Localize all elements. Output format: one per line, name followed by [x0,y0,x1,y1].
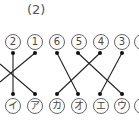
bottom-label-u: ウ [114,98,130,114]
top-label-6: 6 [49,34,65,50]
top-label-1: 1 [27,34,43,50]
line-offleft-to-a [0,64,35,94]
bottom-label-o: オ [71,98,87,114]
top-label-3: 3 [114,34,130,50]
bottom-label-e: エ [93,98,109,114]
bottom-label-a: ア [27,98,43,114]
bottom-label-ka: カ [49,98,65,114]
top-label-2: 2 [5,34,21,50]
bottom-label-i: イ [5,98,21,114]
line-4-to-ka [57,53,100,94]
line-6-to-o [57,53,78,94]
line-3-to-e [100,53,122,94]
top-label-4: 4 [93,34,109,50]
top-label-5: 5 [71,34,87,50]
line-5-to-u [78,53,122,94]
line-1-to-offleft [0,53,35,82]
